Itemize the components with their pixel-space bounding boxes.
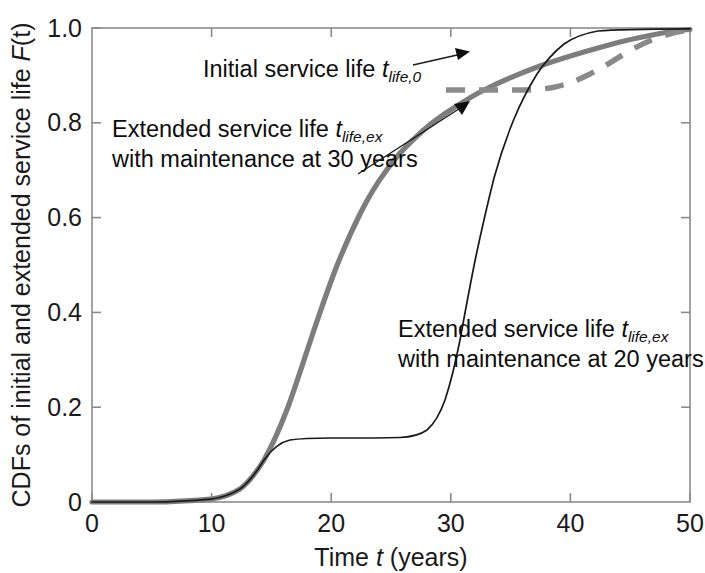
x-tick-label: 0 — [85, 509, 99, 537]
y-tick-labels: 0 0.2 0.4 0.6 0.8 1.0 — [47, 14, 82, 516]
y-tick-label: 0.8 — [47, 108, 82, 136]
annot-ext30-line2: with maintenance at 30 years — [111, 146, 418, 172]
annot-initial-arrowhead-icon — [455, 48, 470, 60]
annot-extended-20-years: Extended service life tlife,ex with main… — [397, 316, 704, 372]
plot-axes-frame — [92, 28, 690, 502]
x-axis-ticks — [92, 28, 690, 502]
initial-service-life-curve — [92, 30, 690, 503]
chart-figure: 0 10 20 30 40 50 0 0.2 0.4 0.6 0.8 1.0 T… — [0, 0, 705, 573]
x-tick-label: 50 — [676, 509, 704, 537]
x-tick-label: 20 — [317, 509, 345, 537]
x-tick-label: 10 — [198, 509, 226, 537]
cdf-service-life-chart: 0 10 20 30 40 50 0 0.2 0.4 0.6 0.8 1.0 T… — [0, 0, 705, 573]
x-axis-title: Time t (years) — [314, 543, 467, 571]
x-tick-labels: 0 10 20 30 40 50 — [85, 509, 704, 537]
annot-ext20-line1: Extended service life tlife,ex — [398, 316, 670, 345]
y-tick-label: 0.4 — [47, 298, 82, 326]
y-tick-label: 0 — [68, 488, 82, 516]
y-axis-title: CDFs of initial and extended service lif… — [7, 23, 35, 508]
annot-initial-service-life: Initial service life tlife,0 — [203, 48, 470, 85]
y-tick-label: 0.6 — [47, 203, 82, 231]
y-tick-label: 1.0 — [47, 14, 82, 42]
annot-ext30-line1: Extended service life tlife,ex — [112, 116, 384, 145]
x-tick-label: 30 — [437, 509, 465, 537]
extended-20-curve — [92, 29, 690, 502]
annot-initial-label: Initial service life tlife,0 — [203, 56, 422, 85]
y-axis-ticks — [92, 28, 690, 502]
extended-30-curve — [446, 30, 690, 90]
y-tick-label: 0.2 — [47, 393, 82, 421]
x-tick-label: 40 — [556, 509, 584, 537]
annot-ext20-line2: with maintenance at 20 years — [397, 346, 704, 372]
